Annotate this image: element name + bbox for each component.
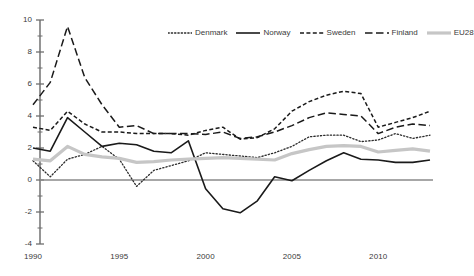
y-tick-label: 10 — [10, 15, 32, 24]
legend-entry-norway: Norway — [236, 29, 290, 37]
dashed-long-swatch — [365, 29, 389, 37]
x-tick-label: 2005 — [272, 252, 312, 261]
y-tick-label: -4 — [10, 239, 32, 248]
series-line-finland — [33, 26, 430, 138]
chart-legend: DenmarkNorwaySwedenFinlandEU28 — [168, 26, 474, 40]
legend-entry-eu28: EU28 — [427, 29, 474, 37]
y-tick-label: 4 — [10, 111, 32, 120]
legend-label: Finland — [392, 29, 418, 37]
legend-label: Norway — [263, 29, 290, 37]
legend-entry-sweden: Sweden — [300, 29, 356, 37]
legend-label: Denmark — [195, 29, 227, 37]
legend-label: Sweden — [327, 29, 356, 37]
dotted-swatch — [168, 29, 192, 37]
x-tick-label: 2010 — [358, 252, 398, 261]
legend-label: EU28 — [454, 29, 474, 37]
legend-entry-finland: Finland — [365, 29, 418, 37]
y-tick-label: 8 — [10, 47, 32, 56]
y-tick-label: 6 — [10, 79, 32, 88]
x-tick-label: 1990 — [13, 252, 53, 261]
axis-layer — [36, 20, 433, 244]
y-tick-label: -2 — [10, 207, 32, 216]
series-line-norway — [33, 118, 430, 213]
x-tick-label: 2000 — [186, 252, 226, 261]
solid-swatch — [236, 29, 260, 37]
y-tick-label: 0 — [10, 175, 32, 184]
x-tick-label: 1995 — [99, 252, 139, 261]
thick-gray-swatch — [427, 29, 451, 37]
series-line-sweden — [33, 91, 430, 139]
y-tick-label: 2 — [10, 143, 32, 152]
legend-entry-denmark: Denmark — [168, 29, 227, 37]
series-layer — [33, 26, 430, 212]
dashed-short-swatch — [300, 29, 324, 37]
